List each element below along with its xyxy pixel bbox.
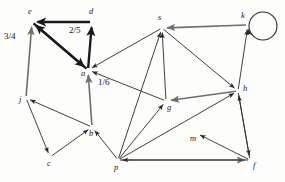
graph-edge-j-to-c (27, 100, 49, 153)
graph-edge-p-to-g (119, 104, 163, 158)
graph-edge-j-to-e (26, 27, 31, 96)
node-label-p: p (113, 162, 118, 172)
node-label-j: j (18, 94, 22, 104)
node-label-a: a (81, 68, 85, 78)
graph-edge-b-to-a (88, 75, 92, 125)
graph-edge-k-to-s (167, 25, 246, 28)
graph-edge-h-to-g (171, 91, 236, 100)
node-label-d: d (89, 6, 94, 16)
edge-labels-layer: 3/42/51/6 (4, 25, 110, 87)
graph-edge-g-to-s (162, 32, 166, 99)
edges-layer (26, 22, 249, 160)
node-label-c: c (47, 158, 51, 168)
graph-edge-a-to-d (88, 27, 91, 68)
node-label-m: m (190, 133, 196, 143)
node-label-e: e (28, 6, 32, 16)
graph-edge-p-to-b (95, 131, 117, 159)
graph-edge-s-to-h (164, 29, 235, 88)
node-label-k: k (241, 10, 245, 20)
graph-edge-b-to-j (30, 100, 90, 126)
graph-canvas: edajcbpsgkhmf 3/42/51/6 (0, 0, 285, 182)
graph-edge-h-to-f (238, 93, 249, 156)
graph-edge-h-to-k (238, 29, 247, 89)
self-loop-k (249, 12, 277, 40)
graph-edge-s-to-a (92, 29, 160, 68)
node-label-b: b (89, 128, 93, 138)
self-loops-layer (249, 12, 277, 40)
graph-edge-f-to-m (200, 135, 248, 159)
node-labels-layer: edajcbpsgkhmf (18, 6, 257, 172)
edge-weight-label: 3/4 (4, 31, 16, 41)
node-label-s: s (158, 12, 162, 22)
node-label-f: f (253, 160, 257, 170)
graph-edge-c-to-b (52, 130, 89, 156)
node-label-h: h (243, 83, 247, 93)
edge-weight-label: 1/6 (98, 77, 110, 87)
node-label-g: g (167, 102, 171, 112)
directed-graph-figure: edajcbpsgkhmf 3/42/51/6 (0, 0, 285, 182)
edge-weight-label: 2/5 (69, 25, 81, 35)
